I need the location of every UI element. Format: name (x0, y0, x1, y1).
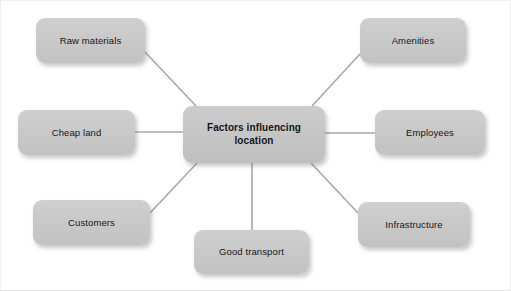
node-amenities[interactable]: Amenities (360, 18, 466, 63)
diagram-canvas: Raw materials Amenities Cheap land Emplo… (0, 0, 511, 291)
node-cheap-land[interactable]: Cheap land (18, 110, 135, 155)
node-label: Employees (400, 127, 460, 139)
node-raw-materials[interactable]: Raw materials (36, 18, 145, 63)
connector-raw-materials-to-center (145, 52, 196, 106)
center-label-line-2: location (234, 135, 273, 146)
node-label: Customers (62, 217, 121, 229)
center-node-label: Factors influencing location (201, 122, 307, 147)
connector-customers-to-center (150, 163, 197, 213)
node-center-factors-influencing-location[interactable]: Factors influencing location (183, 106, 325, 163)
node-label: Cheap land (46, 127, 108, 139)
node-employees[interactable]: Employees (375, 110, 485, 155)
node-infrastructure[interactable]: Infrastructure (358, 202, 470, 247)
node-label: Infrastructure (379, 219, 448, 231)
center-label-line-1: Factors influencing (207, 122, 301, 133)
node-customers[interactable]: Customers (33, 200, 150, 245)
connector-amenities-to-center (312, 54, 360, 106)
node-label: Good transport (213, 246, 290, 258)
node-label: Amenities (386, 35, 441, 47)
connector-infrastructure-to-center (311, 163, 358, 213)
node-good-transport[interactable]: Good transport (194, 230, 309, 274)
node-label: Raw materials (54, 35, 127, 47)
